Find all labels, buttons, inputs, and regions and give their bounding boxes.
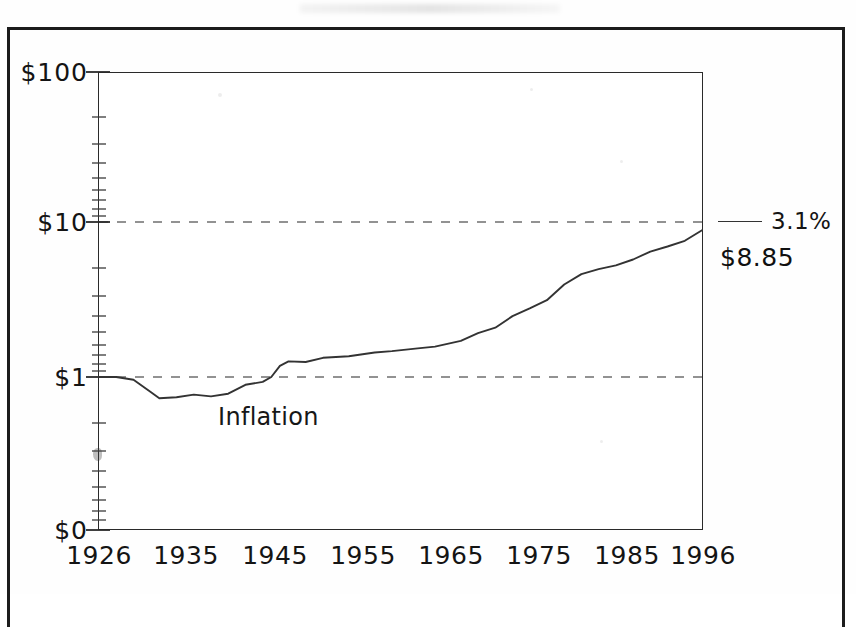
x-axis-tick-1955: 1955 — [324, 541, 402, 570]
ink-blob-artifact — [93, 448, 102, 461]
x-axis-tick-1975: 1975 — [500, 541, 578, 570]
y-axis-major-ticks — [86, 72, 110, 530]
x-axis-tick-1985: 1985 — [588, 541, 666, 570]
paper-speck-artifact — [620, 160, 623, 163]
chart-legend: 3.1% $8.85 — [718, 208, 848, 272]
legend-line-swatch-icon — [718, 221, 762, 222]
x-axis-tick-1935: 1935 — [147, 541, 225, 570]
x-axis-tick-1926: 1926 — [60, 541, 138, 570]
inflation-data-line — [99, 230, 702, 398]
legend-end-value-label: $8.85 — [720, 243, 848, 272]
x-axis-tick-1996: 1996 — [664, 541, 742, 570]
paper-speck-artifact — [600, 440, 603, 443]
paper-speck-artifact — [530, 88, 533, 91]
legend-entry-inflation: 3.1% — [718, 208, 848, 234]
inflation-annotation-label: Inflation — [218, 403, 319, 431]
legend-rate-label: 3.1% — [771, 208, 831, 234]
x-axis-tick-1945: 1945 — [236, 541, 314, 570]
x-axis-tick-1965: 1965 — [412, 541, 490, 570]
paper-speck-artifact — [218, 93, 222, 97]
